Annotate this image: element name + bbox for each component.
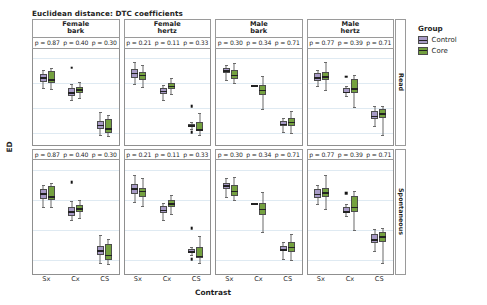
box-plot-sx-core[interactable] xyxy=(231,49,238,145)
median-line xyxy=(259,90,266,92)
whisker-cap-upper xyxy=(78,82,81,83)
pvalue-strip: p = 0.87p = 0.40p = 0.30 xyxy=(32,38,120,49)
box-plot-sx-control[interactable] xyxy=(40,49,47,145)
box-plot-cx-core[interactable] xyxy=(168,160,175,275)
whisker-cap-upper xyxy=(381,106,384,107)
box-plot-cx-control[interactable] xyxy=(160,160,167,275)
box-plot-cs-core[interactable] xyxy=(196,49,203,145)
whisker-cap-upper xyxy=(42,185,45,186)
box-plot-cx-core[interactable] xyxy=(76,49,83,145)
box-plot-sx-core[interactable] xyxy=(139,160,146,275)
box-plot-cx-control[interactable] xyxy=(343,160,350,275)
box-plot-sx-control[interactable] xyxy=(314,49,321,145)
whisker-cap-upper xyxy=(233,63,236,64)
whisker-cap-lower xyxy=(99,263,102,264)
box-plot-cs-control[interactable] xyxy=(371,160,378,275)
box-plot-cx-control[interactable] xyxy=(160,49,167,145)
y-tick-mark xyxy=(32,83,33,84)
box-plot-cs-core[interactable] xyxy=(379,49,386,145)
box-plot-sx-control[interactable] xyxy=(131,160,138,275)
box-plot-cx-core[interactable] xyxy=(351,160,358,275)
legend-item-control[interactable]: Control xyxy=(418,36,457,44)
box-plot-sx-core[interactable] xyxy=(48,160,55,275)
median-line xyxy=(105,128,112,130)
box-plot-cs-control[interactable] xyxy=(371,49,378,145)
box-plot-sx-control[interactable] xyxy=(131,49,138,145)
pvalue-label: p = 0.40 xyxy=(63,39,88,46)
whisker-cap-upper xyxy=(107,115,110,116)
box-plot-sx-core[interactable] xyxy=(231,160,238,275)
whisker-cap-lower xyxy=(50,89,53,90)
whisker-cap-lower xyxy=(141,87,144,88)
box-plot-cs-control[interactable] xyxy=(280,160,287,275)
median-line xyxy=(168,203,175,205)
box-plot-sx-core[interactable] xyxy=(139,49,146,145)
whisker-cap-lower xyxy=(78,218,81,219)
outlier-point xyxy=(71,181,74,184)
box xyxy=(105,119,112,133)
box-plot-cs-core[interactable] xyxy=(196,160,203,275)
whisker-cap-upper xyxy=(225,178,228,179)
box-plot-cx-core[interactable] xyxy=(259,160,266,275)
box-plot-cs-core[interactable] xyxy=(288,160,295,275)
outlier-point xyxy=(71,66,74,69)
box-plot-cx-core[interactable] xyxy=(168,49,175,145)
box-plot-cx-control[interactable] xyxy=(68,160,75,275)
pvalue-label: p = 0.71 xyxy=(366,151,391,158)
box-plot-cx-control[interactable] xyxy=(251,160,258,275)
whisker-cap-upper xyxy=(373,229,376,230)
whisker-cap-upper xyxy=(282,118,285,119)
box-plot-cx-control[interactable] xyxy=(68,49,75,145)
whisker-cap-upper xyxy=(70,84,73,85)
median-line xyxy=(188,125,195,127)
box-plot-cs-core[interactable] xyxy=(288,49,295,145)
box-plot-cs-control[interactable] xyxy=(188,49,195,145)
pvalue-strip: p = 0.77p = 0.39p = 0.71 xyxy=(307,38,395,49)
whisker-cap-upper xyxy=(345,204,348,205)
box-plot-cs-core[interactable] xyxy=(105,49,112,145)
box-plot-cs-control[interactable] xyxy=(280,49,287,145)
whisker-cap-lower xyxy=(42,88,45,89)
legend-label-control: Control xyxy=(432,36,457,44)
box-plot-cs-core[interactable] xyxy=(105,160,112,275)
x-tick-label: Cx xyxy=(163,275,172,283)
plot-panel: 1234 xyxy=(32,49,120,146)
pvalue-label: p = 0.30 xyxy=(218,39,243,46)
box-plot-cx-core[interactable] xyxy=(76,160,83,275)
box-plot-cs-control[interactable] xyxy=(97,160,104,275)
box-plot-sx-control[interactable] xyxy=(223,160,230,275)
box-plot-cx-control[interactable] xyxy=(343,49,350,145)
x-axis-title: Contrast xyxy=(32,288,394,297)
box-plot-cs-control[interactable] xyxy=(97,49,104,145)
box-plot-cs-core[interactable] xyxy=(379,160,386,275)
box-plot-sx-core[interactable] xyxy=(322,160,329,275)
box-plot-sx-control[interactable] xyxy=(314,160,321,275)
box-plot-sx-core[interactable] xyxy=(48,49,55,145)
box-plot-sx-control[interactable] xyxy=(223,49,230,145)
box-plot-cx-core[interactable] xyxy=(351,49,358,145)
legend-item-core[interactable]: Core xyxy=(418,47,457,55)
box-plot-cx-control[interactable] xyxy=(251,49,258,145)
box-plot-cx-core[interactable] xyxy=(259,49,266,145)
box-plot-cs-control[interactable] xyxy=(188,160,195,275)
x-tick-label: CS xyxy=(100,275,109,283)
whisker-cap-lower xyxy=(373,251,376,252)
whisker-cap-upper xyxy=(261,76,264,77)
plot-panel xyxy=(215,49,303,146)
plot-panel xyxy=(124,49,212,146)
x-tick-label: CS xyxy=(283,275,292,283)
outlier-point xyxy=(191,258,194,261)
box-plot-sx-core[interactable] xyxy=(322,49,329,145)
whisker-cap-upper xyxy=(198,236,201,237)
row-strip-spontaneous-label: Spontaneous xyxy=(397,188,405,235)
whisker-cap-upper xyxy=(141,65,144,66)
column-strip-line-2: hertz xyxy=(125,28,211,35)
x-tick-label: Sx xyxy=(42,275,50,283)
pvalue-label: p = 0.11 xyxy=(155,151,180,158)
whisker-cap-upper xyxy=(282,242,285,243)
box-plot-sx-control[interactable] xyxy=(40,160,47,275)
pvalue-label: p = 0.33 xyxy=(183,39,208,46)
median-line xyxy=(280,124,287,126)
median-line xyxy=(343,211,350,213)
plot-panel xyxy=(307,49,395,146)
